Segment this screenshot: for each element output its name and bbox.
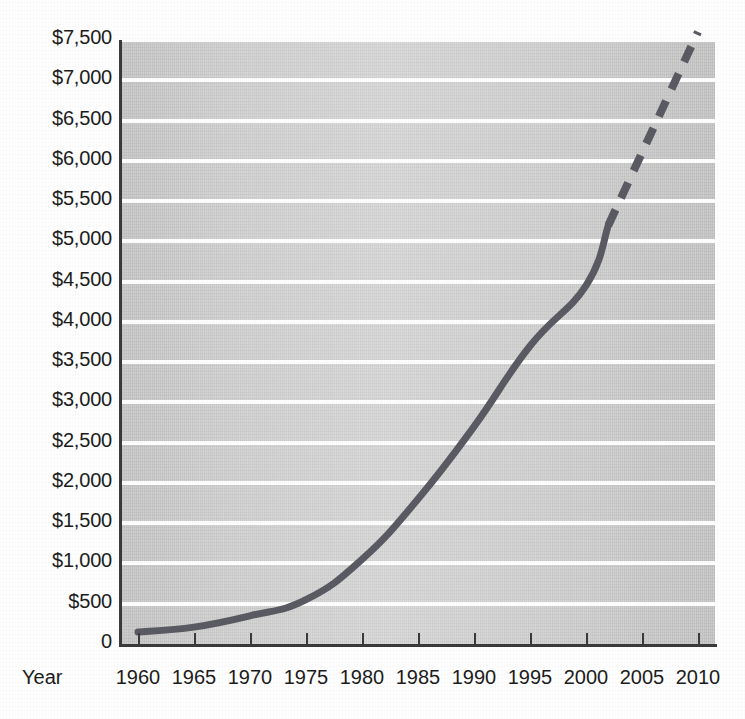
x-axis-labels: Year 19601965197019751980198519901995200…: [0, 0, 745, 719]
x-axis-title: Year: [22, 666, 62, 689]
x-axis-label: 2010: [663, 666, 733, 689]
chart-root: $7,500$7,000$6,500$6,000$5,500$5,000$4,5…: [0, 0, 745, 719]
